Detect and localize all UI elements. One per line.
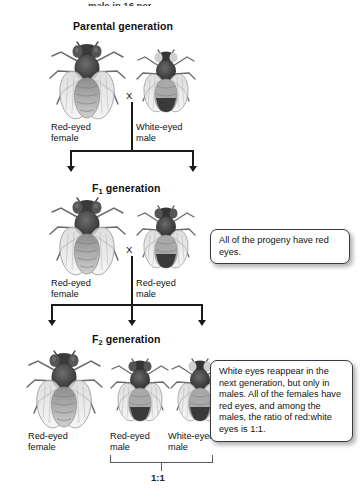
f2-female-label-line2: female [28, 442, 68, 453]
f2-male-white-label: White-eyed male [168, 431, 214, 454]
f2-male-white-label-line1: White-eyed [168, 431, 214, 442]
f1-heading-main: F [92, 182, 99, 194]
ratio-bracket-stem [161, 462, 162, 471]
f2-male-red-label-line2: male [110, 442, 150, 453]
f1-heading-subscript: 1 [99, 187, 103, 196]
parental-female-label-line2: female [51, 133, 91, 144]
f1-arrow-right [198, 320, 206, 326]
parental-female-label: Red-eyed female [51, 122, 91, 145]
f2-male-red-fly [110, 357, 170, 423]
parental-arrow-left [67, 166, 75, 172]
parental-generation-heading: Parental generation [73, 20, 173, 32]
f1-female-label-line2: female [51, 289, 91, 300]
f1-cross-symbol: X [126, 244, 132, 255]
f2-heading-main: F [92, 333, 99, 345]
f1-male-label-line2: male [136, 289, 176, 300]
parental-male-fly [136, 48, 196, 114]
ratio-bracket-right-tick [212, 455, 213, 463]
f1-male-label-line1: Red-eyed [136, 278, 176, 289]
f1-arrow-center [128, 320, 136, 326]
f1-female-label-line1: Red-eyed [51, 278, 91, 289]
f1-branch-left [51, 304, 53, 321]
f2-male-red-label-line1: Red-eyed [110, 431, 150, 442]
f1-split-bar [51, 304, 203, 306]
ratio-label: 1:1 [151, 472, 165, 483]
f2-male-red-label: Red-eyed male [110, 431, 150, 454]
f2-heading-tail: generation [103, 333, 161, 345]
genetics-cross-diagram: male in 16 per Parental generation [0, 0, 360, 499]
f1-male-label: Red-eyed male [136, 278, 176, 301]
parental-male-label: White-eyed male [136, 122, 182, 145]
f2-heading-subscript: 2 [99, 338, 103, 347]
parental-branch-left [70, 150, 72, 167]
f1-female-fly [48, 196, 126, 276]
f2-female-label-line1: Red-eyed [28, 431, 68, 442]
f2-generation-heading: F2 generation [92, 333, 161, 345]
f1-branch-center [131, 304, 133, 321]
f2-callout-box: White eyes reappear in the next generati… [210, 360, 353, 442]
f2-female-fly [25, 349, 103, 429]
parental-cross-stem [131, 102, 133, 151]
f1-branch-right [201, 304, 203, 321]
f1-heading-tail: generation [103, 182, 161, 194]
f1-arrow-left [48, 320, 56, 326]
f2-male-white-label-line2: male [168, 442, 214, 453]
parental-cross-symbol: X [126, 90, 132, 101]
parental-male-label-line1: White-eyed [136, 122, 182, 133]
ratio-bracket-left-tick [110, 455, 111, 463]
f2-female-label: Red-eyed female [28, 431, 68, 454]
parental-split-bar [70, 150, 194, 152]
parental-female-label-line1: Red-eyed [51, 122, 91, 133]
f1-male-fly [136, 204, 196, 270]
cropped-caption-text: male in 16 per [88, 0, 151, 6]
parental-male-label-line2: male [136, 133, 182, 144]
f1-cross-stem [131, 256, 133, 305]
f1-callout-box: All of the progeny have red eyes. [210, 229, 350, 264]
parental-branch-right [192, 150, 194, 167]
parental-arrow-right [189, 166, 197, 172]
f1-generation-heading: F1 generation [92, 182, 161, 194]
f1-female-label: Red-eyed female [51, 278, 91, 301]
parental-female-fly [48, 40, 126, 120]
